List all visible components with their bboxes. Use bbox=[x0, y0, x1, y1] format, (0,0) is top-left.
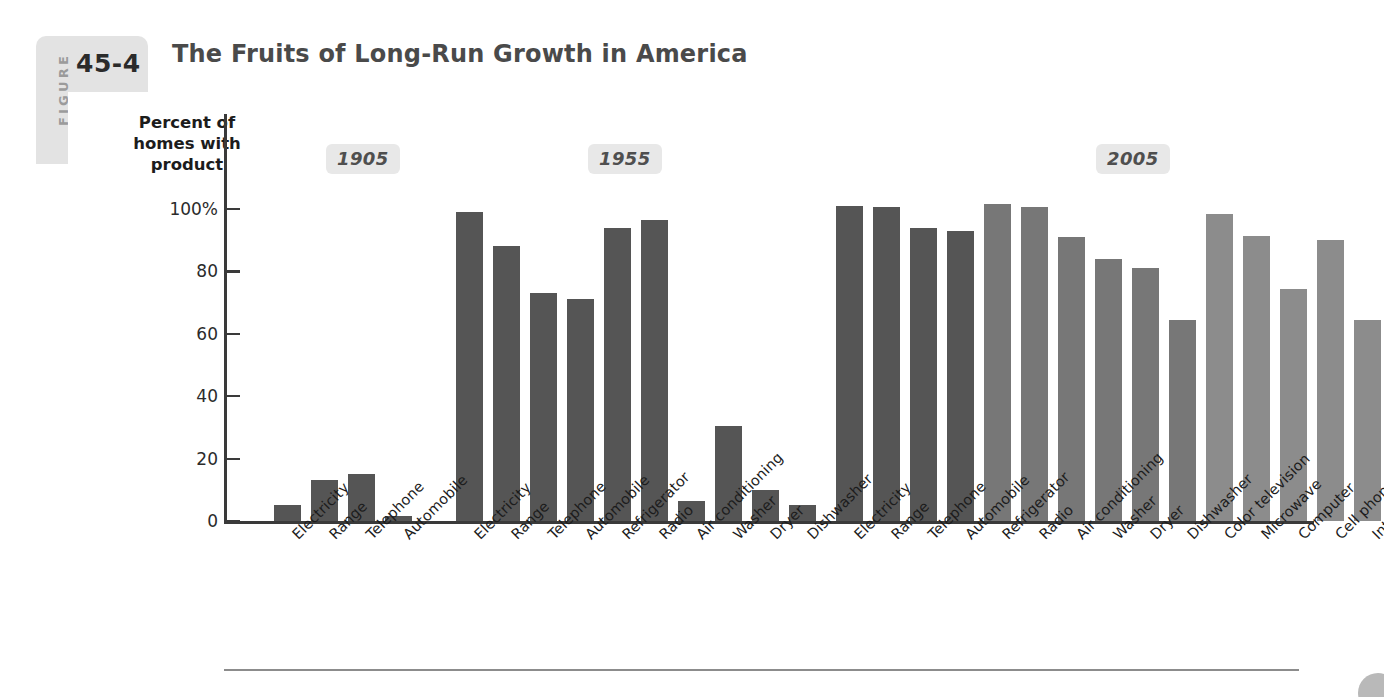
bar bbox=[836, 206, 863, 521]
bar bbox=[274, 505, 301, 521]
bar bbox=[947, 231, 974, 521]
bar bbox=[530, 293, 557, 521]
bar bbox=[984, 204, 1011, 521]
page-corner-mark bbox=[1358, 673, 1384, 697]
bar bbox=[1317, 240, 1344, 521]
bar bbox=[604, 228, 631, 521]
bar bbox=[493, 246, 520, 521]
footer-rule bbox=[224, 669, 1299, 671]
page-title: The Fruits of Long-Run Growth in America bbox=[172, 40, 748, 68]
figure-number: 45-4 bbox=[76, 49, 141, 78]
chart-panel: Percent ofhomes withproduct 100%80604020… bbox=[68, 92, 1322, 652]
bar bbox=[873, 207, 900, 521]
bar bbox=[1021, 207, 1048, 521]
bar bbox=[910, 228, 937, 521]
bar bbox=[1206, 214, 1233, 521]
bar bbox=[1095, 259, 1122, 521]
bar bbox=[1169, 320, 1196, 521]
bars-layer bbox=[68, 92, 1322, 652]
figure-page: FIGURE 45-4 The Fruits of Long-Run Growt… bbox=[0, 0, 1384, 697]
